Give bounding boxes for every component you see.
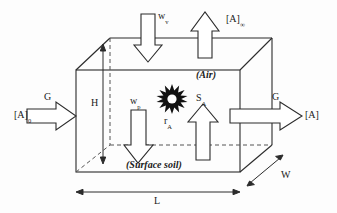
particle-deposition-arrow-icon (124, 110, 153, 163)
top-outflow-arrow-icon (191, 12, 219, 58)
sun-burst-icon (157, 84, 188, 114)
width-dimension-line (247, 155, 283, 186)
particle-deposition-label: wp (130, 96, 140, 109)
inflow-arrow-icon (27, 102, 76, 130)
diagram-canvas: [A]0 G G [A] [A]∞ wv wp SA rA (Air) (Sur… (0, 0, 337, 213)
box-top-face (76, 38, 272, 70)
box-right-face (240, 38, 272, 172)
soil-source-label: SA (196, 93, 206, 106)
inflow-concentration-label: [A]0 (14, 110, 31, 123)
air-region-label: (Air) (196, 70, 216, 80)
inflow-flux-label: G (44, 92, 51, 102)
length-dimension-label: L (154, 196, 160, 206)
height-dimension-label: H (91, 98, 98, 108)
reaction-rate-label: rA (164, 116, 172, 129)
outflow-flux-label: G (272, 92, 279, 102)
diagram-vector-layer (0, 0, 337, 213)
top-outflow-concentration-label: [A]∞ (226, 14, 245, 27)
length-dimension-line (76, 189, 240, 194)
vapor-deposition-label: wv (158, 11, 168, 24)
outflow-arrow-icon (230, 102, 302, 130)
soil-region-label: (Surface soil) (126, 160, 182, 170)
outflow-concentration-label: [A] (305, 110, 319, 120)
width-dimension-label: W (281, 170, 290, 180)
height-dimension-line (100, 44, 105, 164)
soil-source-arrow-icon (188, 104, 218, 160)
